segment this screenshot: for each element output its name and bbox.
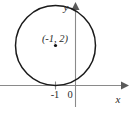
y-axis-label: y xyxy=(63,1,69,13)
origin-label-zero: 0 xyxy=(67,89,72,100)
circle-center-label: (-1, 2) xyxy=(42,33,69,45)
math-figure-circle: y x -1 0 (-1, 2) xyxy=(0,0,134,114)
coordinate-plane-svg: y x -1 0 (-1, 2) xyxy=(0,0,134,114)
circle-center-dot xyxy=(54,44,57,47)
x-axis-arrowhead-icon xyxy=(121,82,129,90)
x-tick-label-minus-one: -1 xyxy=(51,89,60,100)
x-axis-label: x xyxy=(115,93,121,105)
